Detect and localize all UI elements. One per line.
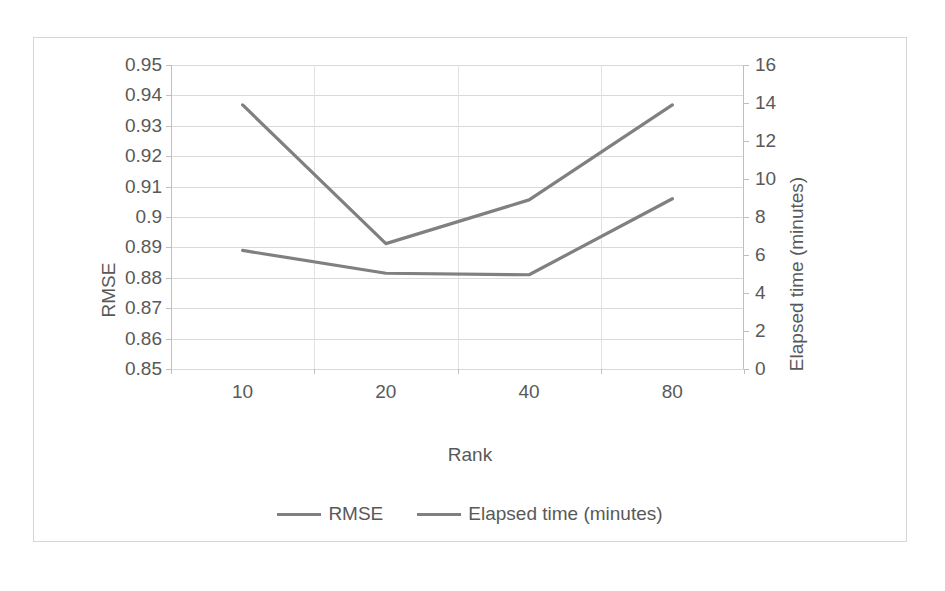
legend-entry-elapsed-time: Elapsed time (minutes) xyxy=(417,503,662,525)
y-axis-right-tick-label: 10 xyxy=(755,168,776,190)
x-axis-tick-label: 10 xyxy=(232,381,253,403)
y-axis-left-tick xyxy=(166,369,171,370)
y-axis-left-tick-label: 0.85 xyxy=(125,358,162,380)
chart-frame: RMSE Elapsed time (minutes) Rank 0.950.9… xyxy=(33,37,907,542)
y-axis-left-tick-label: 0.89 xyxy=(125,236,162,258)
y-axis-right-tick-label: 2 xyxy=(755,320,766,342)
y-axis-left-tick-label: 0.91 xyxy=(125,176,162,198)
y-axis-right-tick xyxy=(744,65,749,66)
y-axis-right-tick xyxy=(744,369,749,370)
legend-label: Elapsed time (minutes) xyxy=(468,503,662,525)
legend-swatch-icon xyxy=(417,513,461,516)
y-axis-left-tick-label: 0.88 xyxy=(125,267,162,289)
y-axis-left-tick-label: 0.9 xyxy=(136,206,162,228)
y-axis-left-tick-label: 0.95 xyxy=(125,54,162,76)
legend-swatch-icon xyxy=(277,513,321,516)
x-axis-tick xyxy=(171,369,172,374)
y-axis-right-tick-label: 4 xyxy=(755,282,766,304)
y-axis-left-title: RMSE xyxy=(98,262,120,317)
y-axis-left-tick-label: 0.87 xyxy=(125,297,162,319)
x-axis-tick-label: 20 xyxy=(375,381,396,403)
y-axis-left-tick-label: 0.93 xyxy=(125,115,162,137)
x-axis-tick xyxy=(601,369,602,374)
y-axis-right-title: Elapsed time (minutes) xyxy=(786,177,808,371)
y-axis-right-tick xyxy=(744,331,749,332)
y-axis-left-tick-label: 0.86 xyxy=(125,328,162,350)
y-axis-right-tick xyxy=(744,293,749,294)
y-axis-right-tick-label: 8 xyxy=(755,206,766,228)
y-axis-left-tick-label: 0.92 xyxy=(125,145,162,167)
x-axis-tick-label: 80 xyxy=(662,381,683,403)
y-axis-left-tick-label: 0.94 xyxy=(125,84,162,106)
x-axis-tick xyxy=(458,369,459,374)
y-axis-right-tick-label: 14 xyxy=(755,92,776,114)
y-axis-right-tick-label: 0 xyxy=(755,358,766,380)
y-axis-right-tick-label: 6 xyxy=(755,244,766,266)
y-axis-right-tick xyxy=(744,179,749,180)
series-line-elapsed-time xyxy=(243,105,673,244)
x-axis-tick-label: 40 xyxy=(519,381,540,403)
y-axis-right-tick xyxy=(744,103,749,104)
y-axis-right-tick xyxy=(744,141,749,142)
plot-area: 0.950.940.930.920.910.90.890.880.870.860… xyxy=(171,65,744,369)
series-plot xyxy=(171,65,744,369)
series-line-rmse xyxy=(243,199,673,275)
y-axis-right-tick-label: 12 xyxy=(755,130,776,152)
chart-legend: RMSE Elapsed time (minutes) xyxy=(34,503,906,525)
y-axis-right-tick-label: 16 xyxy=(755,54,776,76)
legend-label: RMSE xyxy=(328,503,383,525)
y-axis-right-tick xyxy=(744,255,749,256)
legend-entry-rmse: RMSE xyxy=(277,503,383,525)
y-axis-right-tick xyxy=(744,217,749,218)
x-axis-tick xyxy=(314,369,315,374)
x-axis-title: Rank xyxy=(34,444,906,466)
